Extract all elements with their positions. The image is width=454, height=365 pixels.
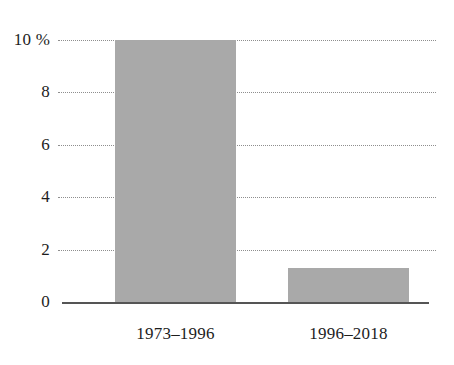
- bar-chart: 10 % 8 6 4 2 0 1973–1996 1996–2018: [0, 0, 454, 365]
- bar-1996-2018: [288, 268, 409, 302]
- y-tick-label-10: 10 %: [0, 30, 50, 50]
- plot-area: 10 % 8 6 4 2 0 1973–1996 1996–2018: [0, 0, 454, 365]
- bar-1973-1996: [115, 40, 236, 302]
- x-axis-line: [62, 302, 429, 304]
- y-tick-label-8: 8: [0, 82, 50, 102]
- x-tick-label-1996-2018: 1996–2018: [288, 324, 409, 344]
- y-tick-label-4: 4: [0, 187, 50, 207]
- y-tick-label-6: 6: [0, 135, 50, 155]
- y-tick-label-2: 2: [0, 240, 50, 260]
- y-tick-label-0: 0: [0, 292, 50, 312]
- x-tick-label-1973-1996: 1973–1996: [115, 324, 236, 344]
